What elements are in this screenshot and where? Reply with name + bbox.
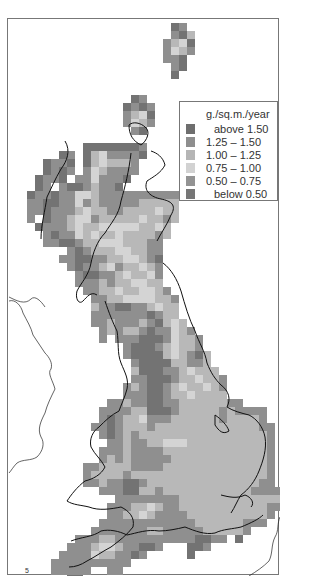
map-cell xyxy=(75,271,83,279)
map-cell xyxy=(67,575,75,576)
map-cell xyxy=(59,199,67,207)
map-cell xyxy=(219,487,227,495)
map-cell xyxy=(179,479,187,487)
map-cell xyxy=(75,239,83,247)
map-cell xyxy=(131,95,139,103)
map-cell xyxy=(67,567,75,575)
map-cell xyxy=(171,503,179,511)
map-cell xyxy=(115,303,123,311)
map-cell xyxy=(163,455,171,463)
map-cell xyxy=(147,359,155,367)
map-cell xyxy=(163,479,171,487)
map-cell xyxy=(139,279,147,287)
map-cell xyxy=(99,327,107,335)
map-cell xyxy=(139,511,147,519)
map-cell xyxy=(227,415,235,423)
map-cell xyxy=(267,431,275,439)
map-cell xyxy=(187,431,195,439)
map-cell xyxy=(115,543,123,551)
map-cell xyxy=(235,463,243,471)
map-cell xyxy=(267,479,275,487)
map-cell xyxy=(187,47,195,55)
map-cell xyxy=(243,527,251,535)
map-cell xyxy=(131,399,139,407)
map-cell xyxy=(139,399,147,407)
map-cell xyxy=(163,207,171,215)
map-cell xyxy=(187,351,195,359)
map-cell xyxy=(219,503,227,511)
map-cell xyxy=(107,479,115,487)
map-cell xyxy=(107,159,115,167)
map-cell xyxy=(187,455,195,463)
map-cell xyxy=(251,487,259,495)
map-cell xyxy=(235,415,243,423)
map-cell xyxy=(99,295,107,303)
map-cell xyxy=(155,255,163,263)
map-cell xyxy=(155,519,163,527)
map-cell xyxy=(83,223,91,231)
map-cell xyxy=(235,447,243,455)
map-cell xyxy=(35,175,43,183)
map-cell xyxy=(99,407,107,415)
map-cell xyxy=(99,199,107,207)
map-cell xyxy=(67,183,75,191)
map-cell xyxy=(155,479,163,487)
map-cell xyxy=(171,63,179,71)
map-cell xyxy=(51,559,59,567)
corner-mark: 5 xyxy=(25,567,29,574)
map-cell xyxy=(99,311,107,319)
legend-swatch xyxy=(186,189,195,199)
map-cell xyxy=(235,431,243,439)
map-cell xyxy=(75,551,83,559)
map-cell xyxy=(147,407,155,415)
map-cell xyxy=(163,215,171,223)
map-cell xyxy=(147,471,155,479)
map-cell xyxy=(251,511,259,519)
map-cell xyxy=(99,431,107,439)
map-cell xyxy=(107,207,115,215)
map-cell xyxy=(139,295,147,303)
map-cell xyxy=(179,415,187,423)
map-cell xyxy=(163,487,171,495)
map-cell xyxy=(187,543,195,551)
map-cell xyxy=(139,471,147,479)
map-cell xyxy=(139,407,147,415)
map-cell xyxy=(35,183,43,191)
map-cell xyxy=(219,439,227,447)
map-cell xyxy=(155,431,163,439)
map-cell xyxy=(115,447,123,455)
map-cell xyxy=(147,111,155,119)
map-cell xyxy=(219,471,227,479)
map-cell xyxy=(195,479,203,487)
map-cell xyxy=(163,335,171,343)
map-cell xyxy=(107,247,115,255)
map-cell xyxy=(163,383,171,391)
map-cell xyxy=(155,455,163,463)
map-cell xyxy=(267,511,275,519)
map-cell xyxy=(219,399,227,407)
map-cell xyxy=(139,151,147,159)
map-cell xyxy=(83,551,91,559)
map-cell xyxy=(187,367,195,375)
map-cell xyxy=(171,367,179,375)
map-cell xyxy=(115,247,123,255)
map-cell xyxy=(123,279,131,287)
map-cell xyxy=(91,199,99,207)
map-cell xyxy=(171,511,179,519)
map-cell xyxy=(187,343,195,351)
map-cell xyxy=(163,351,171,359)
map-cell xyxy=(131,127,139,135)
map-cell xyxy=(179,319,187,327)
legend-label: below 0.50 xyxy=(214,188,267,200)
map-cell xyxy=(147,295,155,303)
map-cell xyxy=(163,391,171,399)
map-cell xyxy=(195,543,203,551)
map-cell xyxy=(83,471,91,479)
map-cell xyxy=(147,231,155,239)
map-cell xyxy=(179,439,187,447)
map-cell xyxy=(123,399,131,407)
map-cell xyxy=(155,215,163,223)
map-cell xyxy=(115,439,123,447)
map-cell xyxy=(155,423,163,431)
map-cell xyxy=(67,215,75,223)
